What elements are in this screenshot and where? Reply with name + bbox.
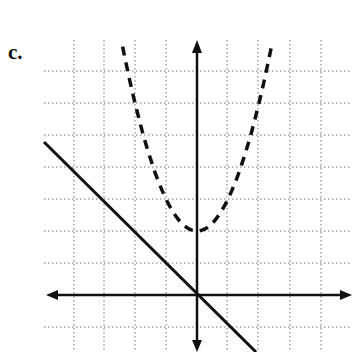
- y-axis: [192, 40, 202, 352]
- x-axis-right-arrow-icon: [340, 290, 352, 300]
- y-axis-down-arrow-icon: [192, 340, 202, 352]
- x-axis-left-arrow-icon: [46, 290, 58, 300]
- solid-line-y-equals-neg-x: [44, 142, 256, 352]
- y-axis-up-arrow-icon: [192, 40, 202, 53]
- coordinate-graph: [0, 0, 357, 352]
